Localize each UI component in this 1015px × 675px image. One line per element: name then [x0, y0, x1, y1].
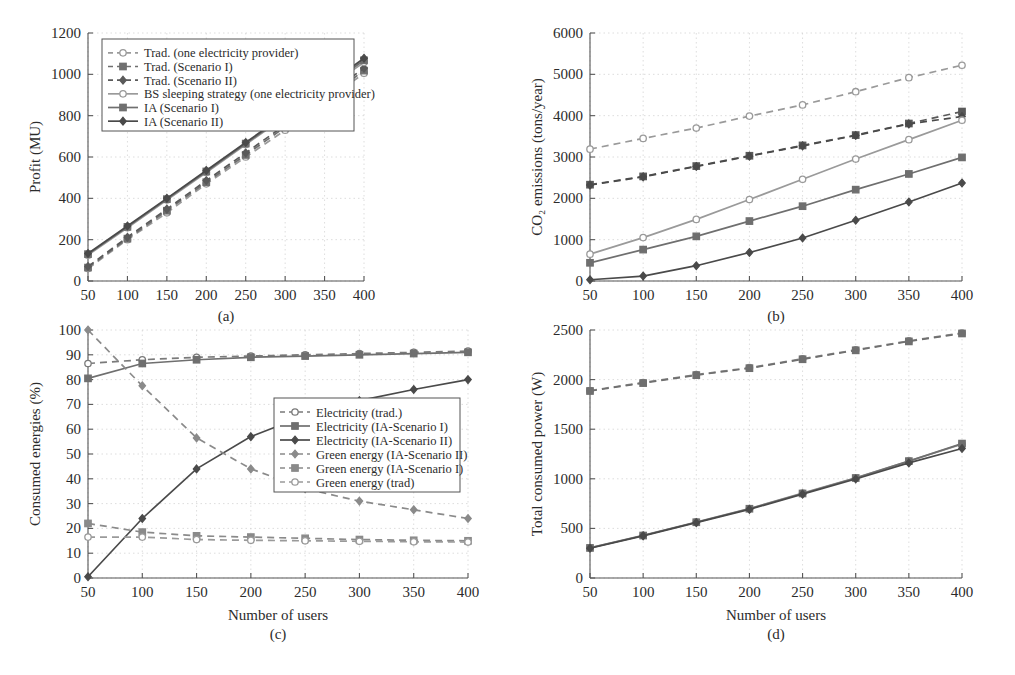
xtick-label: 300	[844, 584, 867, 600]
xtick-label: 200	[738, 584, 761, 600]
series-markers	[587, 445, 965, 552]
xtick-label: 250	[791, 584, 814, 600]
xtick-label: 100	[632, 584, 655, 600]
xtick-label: 150	[685, 584, 708, 600]
subplot-d: 0500100015002000250050100150200250300350…	[0, 0, 1015, 675]
series-markers	[587, 330, 965, 394]
ytick-label: 1000	[553, 471, 583, 487]
xtick-label: 400	[951, 584, 974, 600]
ytick-label: 2500	[553, 322, 583, 338]
ytick-label: 1500	[553, 421, 583, 437]
x-axis-label-d: Number of users	[726, 607, 826, 623]
gridlines-d	[590, 330, 962, 578]
figure-four-panel-energy-results: 0200400600800100012005010015020025030035…	[0, 0, 1015, 675]
series-group-d	[587, 330, 965, 552]
subplot-caption-d: (d)	[767, 626, 785, 643]
ytick-label: 2000	[553, 372, 583, 388]
ytick-label: 500	[561, 520, 584, 536]
y-axis-label-d: Total consumed power (W)	[529, 372, 546, 536]
xtick-label: 50	[583, 584, 598, 600]
xtick-label: 350	[898, 584, 921, 600]
